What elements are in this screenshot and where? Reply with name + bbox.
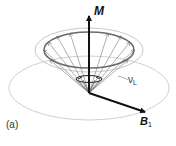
larmor-arc — [118, 76, 128, 80]
larmor-frequency-label: νL — [128, 75, 137, 86]
b-symbol: B — [140, 115, 148, 127]
b-subscript: 1 — [148, 121, 152, 128]
m-vector-label: M — [94, 5, 104, 17]
m-symbol: M — [94, 4, 104, 18]
nu-subscript: L — [133, 79, 137, 86]
b1-vector-arrow — [89, 93, 145, 112]
b1-vector-label: B1 — [140, 116, 152, 128]
panel-label: (a) — [6, 120, 18, 130]
